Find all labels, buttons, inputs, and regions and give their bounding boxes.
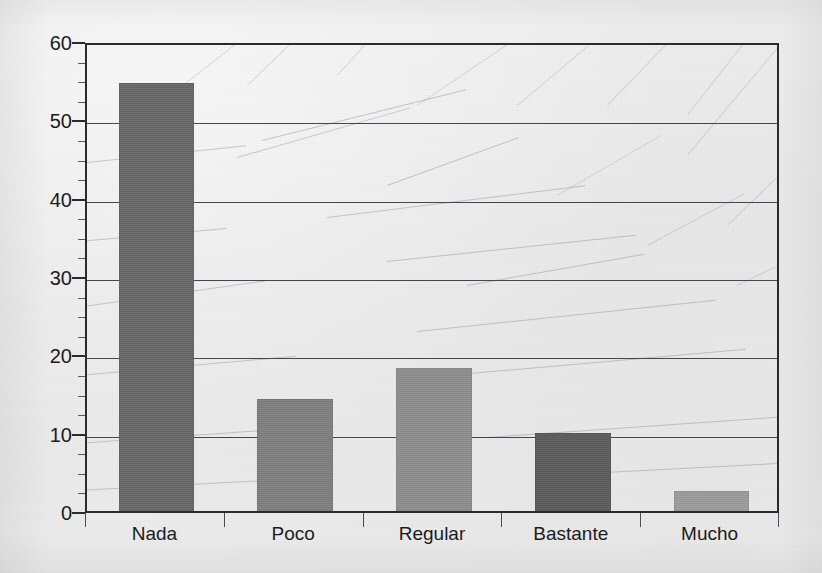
x-label-poco: Poco [224,524,363,545]
y-tick-major-0 [72,512,85,514]
bleed-through-line [517,45,602,106]
y-tick-minor [78,219,85,220]
y-tick-label-50: 50 [26,111,72,131]
bleed-through-line [607,45,698,106]
y-tick-major-30 [72,277,85,279]
y-axis-tick-marks [72,43,85,513]
y-tick-minor [78,317,85,318]
plot-inner [87,45,777,511]
bar-poco [257,399,333,511]
y-tick-minor [78,493,85,494]
y-tick-major-60 [72,42,85,44]
chart-figure: 0102030405060 NadaPocoRegularBastanteMuc… [0,0,822,573]
y-tick-major-10 [72,434,85,436]
y-axis-tick-labels: 0102030405060 [14,43,72,513]
y-tick-major-40 [72,199,85,201]
x-axis-category-labels: NadaPocoRegularBastanteMucho [85,524,779,554]
y-tick-major-20 [72,355,85,357]
bleed-through-line [737,232,777,286]
y-tick-minor [78,82,85,83]
y-tick-minor [78,396,85,397]
y-tick-minor [78,161,85,162]
y-tick-minor [78,239,85,240]
y-tick-major-50 [72,120,85,122]
bar-bastante [535,433,611,511]
y-tick-minor [78,298,85,299]
y-tick-label-10: 10 [26,425,72,445]
y-tick-minor [78,376,85,377]
bleed-through-line [387,137,519,186]
bleed-through-line [487,416,777,438]
y-tick-label-60: 60 [26,33,72,53]
bleed-through-line [417,300,715,332]
y-tick-minor [78,63,85,64]
bleed-through-line [447,349,746,376]
bleed-through-line [262,89,466,141]
y-tick-label-0: 0 [26,503,72,523]
y-tick-minor [78,337,85,338]
x-label-bastante: Bastante [501,524,640,545]
bleed-through-line [687,48,777,156]
bleed-through-line [467,254,644,286]
x-label-mucho: Mucho [640,524,779,545]
y-tick-minor [78,454,85,455]
y-tick-label-40: 40 [26,190,72,210]
y-tick-minor [78,415,85,416]
x-label-nada: Nada [85,524,224,545]
bleed-through-line [337,45,405,76]
bleed-through-line [727,135,777,226]
y-tick-minor [78,102,85,103]
y-tick-minor [78,258,85,259]
bleed-through-line [417,45,517,106]
y-tick-label-20: 20 [26,346,72,366]
bar-mucho [674,491,750,511]
x-label-regular: Regular [363,524,502,545]
bleed-through-line [237,107,410,158]
y-tick-label-30: 30 [26,268,72,288]
bar-regular [396,368,472,511]
bleed-through-line [247,45,312,86]
bleed-through-line [687,45,777,116]
y-tick-minor [78,180,85,181]
plot-area [85,43,779,513]
y-tick-minor [78,474,85,475]
y-tick-minor [78,141,85,142]
bar-nada [119,83,195,511]
bleed-through-line [557,135,661,196]
bleed-through-line [387,235,636,262]
